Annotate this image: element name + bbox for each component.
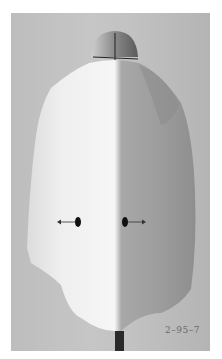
garment-illustration <box>11 13 210 351</box>
dress-form-stand <box>115 331 124 351</box>
garment-photo: 2–95–7 <box>11 13 210 351</box>
figure-caption: 2–95–7 <box>165 325 200 335</box>
